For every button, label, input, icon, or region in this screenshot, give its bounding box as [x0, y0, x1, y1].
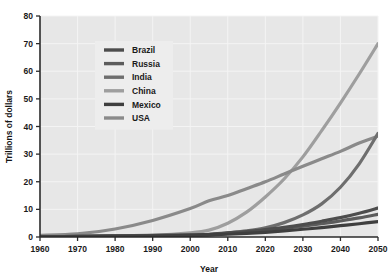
x-tick-label: 1980 — [106, 244, 125, 254]
y-tick-label: 0 — [28, 232, 33, 242]
x-tick-label: 1970 — [68, 244, 87, 254]
chart-legend: BrazilRussiaIndiaChinaMexicoUSA — [95, 41, 173, 130]
x-tick-label: 1960 — [31, 244, 50, 254]
gdp-projection-chart: 0102030405060708019601970198019902000201… — [0, 0, 391, 277]
x-tick-label: 2010 — [218, 244, 237, 254]
x-tick-label: 2000 — [181, 244, 200, 254]
y-tick-label: 20 — [24, 177, 34, 187]
legend-label: India — [132, 72, 152, 82]
legend-label: Russia — [132, 59, 160, 69]
x-tick-label: 2030 — [293, 244, 312, 254]
legend-label: China — [132, 86, 156, 96]
y-tick-label: 30 — [24, 149, 34, 159]
legend-label: USA — [132, 113, 150, 123]
y-tick-label: 70 — [24, 39, 34, 49]
y-tick-label: 10 — [24, 204, 34, 214]
chart-figure: 0102030405060708019601970198019902000201… — [0, 0, 391, 277]
x-tick-label: 2020 — [256, 244, 275, 254]
y-tick-label: 50 — [24, 94, 34, 104]
x-axis-title: Year — [200, 264, 219, 274]
legend-label: Mexico — [132, 100, 161, 110]
y-tick-label: 60 — [24, 66, 34, 76]
legend-label: Brazil — [132, 45, 155, 55]
x-tick-label: 2040 — [331, 244, 350, 254]
x-tick-label: 2050 — [369, 244, 388, 254]
y-axis-title: Trillions of dollars — [4, 90, 14, 163]
x-tick-label: 1990 — [143, 244, 162, 254]
y-tick-label: 40 — [24, 122, 34, 132]
y-tick-label: 80 — [24, 11, 34, 21]
